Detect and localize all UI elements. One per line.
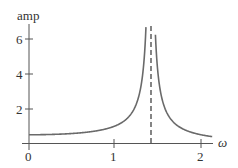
amplitude-curve [29,27,212,136]
y-tick-label-2: 2 [16,102,23,117]
y-tick-label-6: 6 [16,32,23,47]
x-tick-label-2: 2 [197,149,204,164]
x-axis-label: ω [218,135,227,150]
y-axis-label: amp [17,8,39,23]
x-tick-label-1: 1 [110,149,117,164]
chart: amp 6 4 2 0 1 2 ω [0,0,238,168]
y-tick-label-4: 4 [16,67,23,82]
x-tick-label-0: 0 [25,149,32,164]
